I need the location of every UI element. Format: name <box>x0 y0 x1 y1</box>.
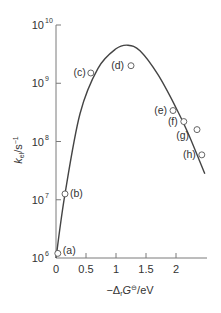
x-tick-label: 1 <box>113 263 119 275</box>
data-point-label: (e) <box>154 104 167 116</box>
x-tick-label: 0.5 <box>78 263 93 275</box>
y-tick-label: 10 <box>32 136 44 148</box>
data-point-label: (f) <box>168 115 178 127</box>
data-point-marker <box>181 119 187 125</box>
data-point-label: (c) <box>74 66 86 78</box>
y-tick-label: 10 <box>32 194 44 206</box>
x-tick-label: 0 <box>53 263 59 275</box>
y-tick-label: 10 <box>32 19 44 31</box>
data-point-marker <box>128 63 134 69</box>
y-ticks: 1061071081091010 <box>32 17 61 264</box>
marcus-plot: 00.511.52 1061071081091010 (a)(b)(c)(d)(… <box>0 0 221 313</box>
data-point-label: (a) <box>63 244 76 256</box>
y-tick-exponent: 7 <box>45 192 49 199</box>
x-tick-label: 1.5 <box>138 263 153 275</box>
data-point-marker <box>62 191 68 197</box>
data-point-marker <box>194 127 200 133</box>
y-tick-label: 10 <box>32 77 44 89</box>
data-point-label: (b) <box>70 187 83 199</box>
data-point-label: (g) <box>176 129 189 141</box>
y-tick-exponent: 9 <box>45 75 49 82</box>
data-point-marker <box>199 152 205 158</box>
data-points: (a)(b)(c)(d)(e)(f)(g)(h) <box>55 59 205 257</box>
y-tick-exponent: 8 <box>45 134 49 141</box>
axes <box>56 25 207 258</box>
y-tick-label: 10 <box>32 252 44 264</box>
y-axis-title: kel/s−1 <box>12 136 25 164</box>
data-point-label: (h) <box>183 148 196 160</box>
data-point-label: (d) <box>111 59 124 71</box>
data-point-marker <box>170 108 176 114</box>
x-axis-title: −ΔrG⊖/eV <box>106 284 154 297</box>
y-tick-exponent: 10 <box>45 17 53 24</box>
y-tick-exponent: 6 <box>45 250 49 257</box>
data-point-marker <box>55 250 61 256</box>
data-point-marker <box>88 70 94 76</box>
x-tick-label: 2 <box>173 263 179 275</box>
